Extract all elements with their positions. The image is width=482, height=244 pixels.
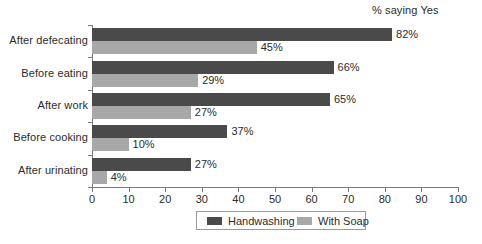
x-axis-tick-label: 80 — [379, 193, 391, 205]
bar-value-label: 10% — [133, 138, 155, 151]
x-axis-tick — [458, 188, 459, 192]
x-axis-tick-label: 70 — [342, 193, 354, 205]
bar-handwashing — [92, 158, 191, 171]
x-axis-tick — [312, 188, 313, 192]
legend-label: Handwashing — [228, 215, 295, 227]
chart-title: % saying Yes — [372, 4, 439, 16]
x-axis-tick — [275, 188, 276, 192]
bar-handwashing — [92, 28, 392, 41]
category-label: After defecating — [9, 34, 88, 46]
x-axis-tick — [202, 188, 203, 192]
x-axis-tick — [348, 188, 349, 192]
x-axis-tick-label: 40 — [232, 193, 244, 205]
bar-with-soap — [92, 171, 107, 184]
bar-with-soap — [92, 41, 257, 54]
bar-with-soap — [92, 106, 191, 119]
x-axis-tick — [421, 188, 422, 192]
x-axis-tick-label: 90 — [415, 193, 427, 205]
bar-handwashing — [92, 93, 330, 106]
bar-value-label: 65% — [334, 93, 356, 106]
bar-handwashing — [92, 125, 227, 138]
x-axis-tick-label: 30 — [196, 193, 208, 205]
x-axis-tick — [92, 188, 93, 192]
category-label: Before cooking — [13, 131, 88, 143]
bar-value-label: 82% — [396, 28, 418, 41]
bar-value-label: 29% — [202, 74, 224, 87]
y-axis-tick — [88, 155, 92, 156]
x-axis-tick — [165, 188, 166, 192]
x-axis-tick-label: 20 — [159, 193, 171, 205]
legend-item-handwashing: Handwashing — [207, 212, 295, 229]
bar-value-label: 66% — [338, 61, 360, 74]
bar-handwashing — [92, 61, 334, 74]
y-axis-tick — [88, 57, 92, 58]
plot-area: 82%45%66%29%65%27%37%10%27%4% — [92, 25, 458, 187]
chart-legend: Handwashing With Soap — [196, 211, 366, 230]
y-axis-tick — [88, 90, 92, 91]
category-label: After work — [37, 99, 88, 111]
x-axis-tick — [238, 188, 239, 192]
bar-with-soap — [92, 74, 198, 87]
x-axis-tick-label: 0 — [89, 193, 95, 205]
bar-with-soap — [92, 138, 129, 151]
x-axis-tick-label: 60 — [305, 193, 317, 205]
category-label: Before eating — [21, 67, 88, 79]
bar-value-label: 27% — [195, 158, 217, 171]
y-axis-tick — [88, 122, 92, 123]
x-axis-tick-label: 100 — [449, 193, 467, 205]
category-label: After urinating — [18, 164, 88, 176]
bar-value-label: 4% — [111, 171, 127, 184]
legend-swatch-icon — [207, 217, 222, 225]
bar-chart: % saying Yes 82%45%66%29%65%27%37%10%27%… — [0, 0, 482, 244]
x-axis-tick-label: 50 — [269, 193, 281, 205]
x-axis-tick-label: 10 — [122, 193, 134, 205]
legend-label: With Soap — [318, 215, 369, 227]
bar-value-label: 45% — [261, 41, 283, 54]
bar-value-label: 37% — [231, 125, 253, 138]
legend-item-with-soap: With Soap — [297, 212, 369, 229]
x-axis-tick — [385, 188, 386, 192]
legend-swatch-icon — [297, 217, 312, 225]
bar-value-label: 27% — [195, 106, 217, 119]
y-axis-tick — [88, 25, 92, 26]
x-axis-tick — [129, 188, 130, 192]
